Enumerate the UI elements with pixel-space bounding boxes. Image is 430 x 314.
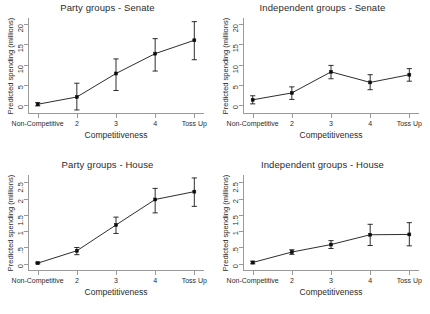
y-tick-label-wrap: 5 [239,85,240,86]
series-line-with-error-bars [243,18,419,114]
x-axis-tick-label: 4 [368,120,372,127]
y-axis-tick-label: .5 [231,247,240,253]
data-point-marker [193,39,196,42]
plot-area: 05101520Non-Competitive234Toss Up [28,18,204,114]
y-axis-tick-label: 2.5 [16,182,25,192]
y-tick-label-wrap: 20 [239,24,240,25]
y-axis-tick-label: .5 [16,247,25,253]
data-point-marker [115,72,118,75]
x-axis-tick-label: Toss Up [182,120,207,127]
x-axis-tick [77,114,78,118]
x-axis-tick [370,114,371,118]
plot-area: 0.511.522.5Non-Competitive234Toss Up [243,175,419,271]
y-axis-tick-label: 2 [231,199,240,203]
y-axis-tick-label: 0 [231,105,240,109]
panel-party-groups-house: Party groups - House Predicted spending … [0,157,215,314]
data-point-marker [290,251,293,254]
x-axis-tick [253,114,254,118]
x-axis-tick-label: 2 [75,277,79,284]
y-axis-tick-label: 0 [231,264,240,268]
y-tick-label-wrap: 1.5 [239,215,240,216]
y-tick-label-wrap: 2 [239,199,240,200]
data-point-marker [408,233,411,236]
y-axis-title: Predicted spending (millions) [219,175,230,271]
y-tick-label-wrap: 0 [239,264,240,265]
data-point-marker [154,52,157,55]
y-tick-label-wrap: .5 [24,247,25,248]
x-axis-tick [409,271,410,275]
y-axis-tick-label: 0 [16,105,25,109]
x-axis-tick-label: 4 [153,120,157,127]
y-axis-tick-label: 20 [16,24,25,32]
y-tick-label-wrap: 5 [24,85,25,86]
x-axis-tick-label: 2 [290,120,294,127]
y-axis-tick-label: 1.5 [231,215,240,225]
y-tick-label-wrap: 20 [24,24,25,25]
series-line-with-error-bars [243,175,419,271]
x-axis-tick-label: 2 [290,277,294,284]
panel-title: Independent groups - Senate [215,2,430,13]
figure-panel-grid: Party groups - Senate Predicted spending… [0,0,430,314]
x-axis-tick-label: Non-Competitive [12,277,64,284]
data-point-marker [369,81,372,84]
y-tick-label-wrap: 1 [24,231,25,232]
y-tick-label-wrap: 0 [239,105,240,106]
x-axis-title: Competitiveness [243,287,419,297]
x-axis-tick [38,114,39,118]
x-axis-tick [155,114,156,118]
y-axis-tick-label: 15 [16,44,25,52]
x-axis-tick-label: 2 [75,120,79,127]
data-point-marker [251,261,254,264]
data-point-marker [369,233,372,236]
y-axis-title: Predicted spending (millions) [4,18,15,114]
data-point-marker [115,223,118,226]
y-axis-tick-label: 1.5 [16,215,25,225]
y-axis-tick-label: 20 [231,24,240,32]
data-point-marker [251,98,254,101]
x-axis-tick [331,114,332,118]
x-axis-tick [116,114,117,118]
x-axis-tick [194,114,195,118]
x-axis-tick-label: Toss Up [397,120,422,127]
x-axis-tick [331,271,332,275]
y-tick-label-wrap: 2.5 [24,182,25,183]
x-axis-tick-label: 4 [153,277,157,284]
y-axis-tick-label: 10 [231,65,240,73]
data-point-marker [75,249,78,252]
x-axis-tick [370,271,371,275]
y-axis-tick-label: 1 [16,231,25,235]
x-axis-tick-label: 3 [329,277,333,284]
y-tick-label-wrap: 15 [239,44,240,45]
data-point-marker [290,91,293,94]
y-tick-label-wrap: .5 [239,247,240,248]
y-axis-tick-label: 5 [16,85,25,89]
data-point-marker [36,262,39,265]
x-axis-tick-label: Toss Up [397,277,422,284]
y-tick-label-wrap: 10 [239,65,240,66]
x-axis-tick-label: Non-Competitive [227,120,279,127]
x-axis-tick-label: 3 [329,120,333,127]
x-axis-tick-label: Toss Up [182,277,207,284]
x-axis-title: Competitiveness [28,130,204,140]
x-axis-tick-label: 3 [114,277,118,284]
y-tick-label-wrap: 15 [24,44,25,45]
y-axis-tick-label: 10 [16,65,25,73]
x-axis-tick [116,271,117,275]
y-axis-tick-label: 2.5 [231,182,240,192]
y-tick-label-wrap: 1.5 [24,215,25,216]
x-axis-tick [292,114,293,118]
x-axis-tick [409,114,410,118]
panel-independent-groups-senate: Independent groups - Senate Predicted sp… [215,0,430,157]
data-point-marker [330,70,333,73]
plot-area: 05101520Non-Competitive234Toss Up [243,18,419,114]
data-point-marker [408,73,411,76]
x-axis-tick [292,271,293,275]
x-axis-title: Competitiveness [28,287,204,297]
x-axis-tick [155,271,156,275]
data-point-marker [193,190,196,193]
y-tick-label-wrap: 10 [24,65,25,66]
x-axis-tick [253,271,254,275]
x-axis-tick-label: 3 [114,120,118,127]
y-axis-title: Predicted spending (millions) [4,175,15,271]
y-axis-tick-label: 2 [16,199,25,203]
